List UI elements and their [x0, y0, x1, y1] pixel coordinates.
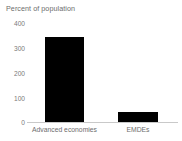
bar-group-emdes: EMDEs — [118, 19, 158, 122]
y-axis: 400 300 200 100 0 — [0, 0, 25, 141]
bar-group-advanced-economies: Advanced economies — [45, 19, 84, 122]
bar-advanced-economies — [45, 37, 84, 122]
y-axis-tick-300: 300 — [1, 45, 25, 52]
x-axis-label-emdes: EMDEs — [96, 122, 180, 134]
y-axis-tick-0: 0 — [1, 119, 25, 126]
x-axis-label-advanced-economies: Advanced economies — [23, 122, 106, 134]
bar-emdes — [118, 112, 158, 122]
y-axis-tick-200: 200 — [1, 70, 25, 77]
bar-chart: Percent of population 400 300 200 100 0 … — [0, 0, 182, 141]
y-axis-tick-100: 100 — [1, 95, 25, 102]
y-axis-tick-400: 400 — [1, 20, 25, 27]
